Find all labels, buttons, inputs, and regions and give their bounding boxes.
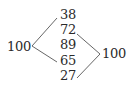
edge-left-to-65 xyxy=(32,46,57,62)
edge-72-to-right xyxy=(77,34,100,54)
middle-node-89: 89 xyxy=(60,38,76,52)
edge-27-to-right xyxy=(77,54,100,78)
middle-node-38: 38 xyxy=(60,8,76,22)
left-node-label: 100 xyxy=(7,40,31,54)
middle-node-27: 27 xyxy=(60,69,76,83)
edge-left-to-38 xyxy=(32,18,57,46)
right-node-label: 100 xyxy=(102,47,126,61)
middle-node-72: 72 xyxy=(60,23,76,37)
middle-node-65: 65 xyxy=(60,54,76,68)
matching-diagram: 100 38 72 89 65 27 100 xyxy=(0,0,130,90)
